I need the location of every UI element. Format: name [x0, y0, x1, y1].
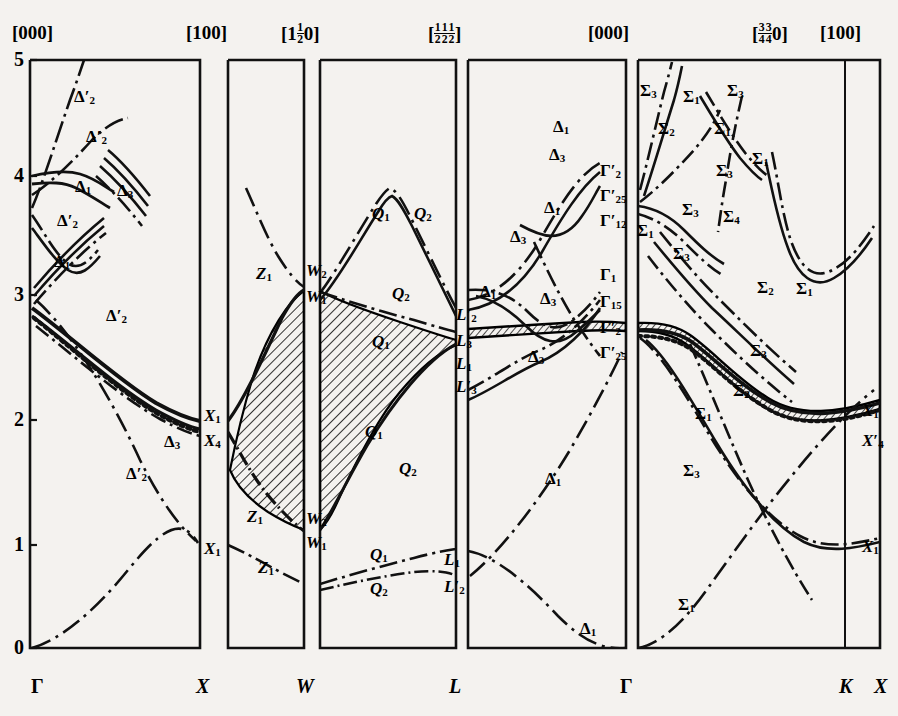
band-label-dd1-4: Δ1 — [545, 470, 561, 488]
band-label-s3-6: Σ3 — [750, 342, 767, 360]
band-label-d2p-1: Δ′2 — [74, 88, 95, 106]
hatched-narrow-band — [468, 322, 880, 421]
bands-l-gamma — [468, 163, 626, 648]
top-label-t-1half0: [1120] — [281, 22, 320, 45]
band-label-s3-4: Σ3 — [682, 201, 699, 219]
band-structure-figure: 5 4 3 2 1 0 [000][100][1120][121212][000… — [0, 0, 898, 716]
band-label-d3-1: Δ3 — [117, 182, 133, 200]
band-label-q2-3: Q2 — [399, 460, 417, 478]
band-label-s3-2: Σ3 — [727, 82, 744, 100]
band-label-d3-2: Δ3 — [164, 433, 180, 451]
band-label-q1-4: Q1 — [370, 546, 388, 564]
band-label-w1-b: W1 — [306, 534, 327, 552]
band-label-d2p-5: Δ′2 — [126, 465, 147, 483]
band-label-x4-a: X4 — [204, 432, 221, 450]
band-label-dd1-3: Δ1 — [480, 283, 496, 301]
band-label-dd1-2: Δ1 — [544, 199, 560, 217]
band-label-d1-2: Δ1 — [54, 253, 70, 271]
band-label-dd3-4: Δ3 — [528, 348, 544, 366]
band-label-s2-3: Σ2 — [733, 382, 750, 400]
band-label-dd3-3: Δ3 — [540, 290, 556, 308]
top-label-t-000-a: [000] — [12, 22, 53, 44]
band-label-s2-2: Σ2 — [757, 279, 774, 297]
band-label-s3-7: Σ3 — [683, 462, 700, 480]
band-label-q2-2: Q2 — [392, 285, 410, 303]
y-tick-4: 4 — [2, 164, 24, 187]
band-label-dd1-1: Δ1 — [553, 118, 569, 136]
band-label-x4-c: X′4 — [862, 432, 884, 450]
band-label-z1-1: Z1 — [256, 265, 272, 283]
top-label-t-000-b: [000] — [588, 22, 629, 44]
top-label-t-100-a: [100] — [186, 22, 227, 44]
band-label-x1-b: X1 — [204, 540, 221, 558]
band-label-d2p-4: Δ′2 — [106, 307, 127, 325]
band-label-d2p-3: Δ′2 — [57, 212, 78, 230]
band-label-x1-d: X1 — [862, 538, 879, 556]
band-label-dd3-2: Δ3 — [510, 228, 526, 246]
band-label-q1-3: Q1 — [365, 423, 383, 441]
band-label-w2-b: W2 — [306, 510, 327, 528]
band-label-dd1-5: Δ1 — [580, 620, 596, 638]
band-label-z1-3: Z1 — [258, 559, 274, 577]
top-label-t-3340: [34340] — [752, 22, 788, 45]
band-label-d1-1: Δ1 — [75, 178, 91, 196]
bottom-label-b-gamma-1: Γ — [31, 675, 44, 698]
band-label-s1-6: Σ1 — [695, 405, 712, 423]
band-label-s1-7: Σ1 — [678, 596, 695, 614]
band-label-s1-1: Σ1 — [683, 88, 700, 106]
y-tick-5: 5 — [2, 48, 24, 71]
band-label-x1-c: X1 — [862, 402, 879, 420]
band-label-s1-5: Σ1 — [796, 280, 813, 298]
band-label-s4-1: Σ4 — [723, 208, 740, 226]
band-label-s2-1: Σ2 — [658, 120, 675, 138]
band-label-g2p: Γ′2 — [600, 162, 621, 180]
band-label-g1: Γ1 — [600, 266, 616, 284]
band-label-x1-a: X1 — [204, 407, 221, 425]
band-label-s1-2: Σ1 — [714, 120, 731, 138]
band-label-l2p-b: L′2 — [444, 578, 465, 596]
band-label-l1-b: L1 — [444, 551, 460, 569]
band-label-g25p: Γ′25 — [600, 187, 627, 205]
bottom-label-b-k: K — [839, 675, 852, 698]
bottom-label-b-gamma-2: Γ — [620, 675, 633, 698]
band-label-q1-1: Q1 — [372, 205, 390, 223]
band-label-l3p: L′3 — [456, 378, 477, 396]
band-label-w2-a: W2 — [306, 262, 327, 280]
band-label-l3: L3 — [456, 332, 472, 350]
band-label-l1: L1 — [456, 355, 472, 373]
band-label-s3-1: Σ3 — [640, 82, 657, 100]
band-label-s3-3: Σ3 — [716, 162, 733, 180]
y-tick-3: 3 — [2, 283, 24, 306]
band-label-q2-4: Q2 — [370, 580, 388, 598]
band-label-g15: Γ15 — [600, 293, 622, 311]
band-label-s1-4: Σ1 — [637, 222, 654, 240]
band-label-s1-3: Σ1 — [752, 150, 769, 168]
band-label-q1-2: Q1 — [372, 333, 390, 351]
band-label-g12p: Γ′12 — [600, 212, 627, 230]
band-label-d2p-2: Δ′2 — [86, 128, 107, 146]
band-label-l2p: L′2 — [456, 306, 477, 324]
top-label-t-100-b: [100] — [820, 22, 861, 44]
band-label-q2-1: Q2 — [414, 205, 432, 223]
bottom-label-b-l: L — [449, 675, 461, 698]
band-label-dd3-1: Δ3 — [549, 146, 565, 164]
bottom-label-b-w: W — [296, 675, 314, 698]
bands-gamma-x — [32, 60, 200, 648]
band-label-w1-a: W1 — [306, 288, 327, 306]
band-label-g25p-b: Γ′25 — [600, 344, 627, 362]
y-tick-1: 1 — [2, 533, 24, 556]
band-label-z1-2: Z1 — [247, 508, 263, 526]
y-tick-0: 0 — [2, 636, 24, 659]
hatched-gap-region — [230, 291, 456, 530]
bottom-label-b-x-1: X — [196, 675, 209, 698]
band-label-s3-5: Σ3 — [673, 245, 690, 263]
y-tick-2: 2 — [2, 408, 24, 431]
band-label-g2p-b: Γ′2 — [600, 319, 621, 337]
bottom-label-b-x-2: X — [874, 675, 887, 698]
top-label-t-halves: [121212] — [428, 22, 461, 45]
